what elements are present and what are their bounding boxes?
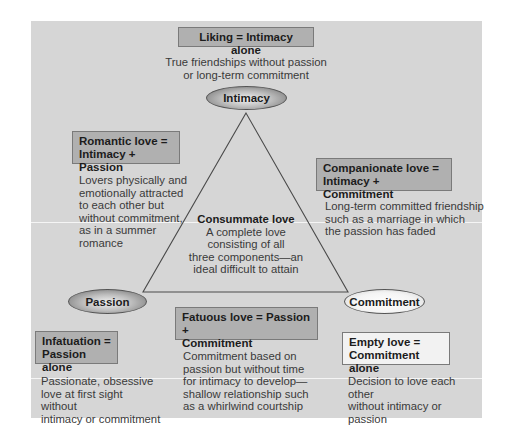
passion-node: Passion: [68, 289, 147, 314]
infatuation-description: Passionate, obsessive love at first sigh…: [41, 375, 161, 425]
liking-description: True friendships without passion or long…: [150, 56, 342, 81]
commitment-node: Commitment: [344, 289, 425, 314]
fatuous-love-box: Fatuous love = Passion + Commitment: [175, 307, 318, 340]
romantic-love-box: Romantic love = Intimacy + Passion: [72, 131, 180, 164]
companionate-love-description: Long-term committed friendship such as a…: [325, 200, 485, 238]
companionate-love-box: Companionate love = Intimacy + Commitmen…: [316, 158, 452, 191]
liking-box: Liking = Intimacy alone: [178, 27, 314, 47]
empty-love-box: Empty love = Commitment alone: [342, 332, 450, 365]
consummate-love-text: Consummate love A complete love consisti…: [186, 213, 306, 276]
romantic-love-description: Lovers physically and emotionally attrac…: [79, 174, 189, 250]
infatuation-box: Infatuation = Passion alone: [35, 331, 118, 364]
fatuous-love-description: Commitment based on passion but without …: [183, 350, 333, 413]
intimacy-node: Intimacy: [206, 86, 287, 110]
consummate-love-title: Consummate love: [186, 213, 306, 226]
empty-love-description: Decision to love each other without inti…: [348, 375, 483, 425]
